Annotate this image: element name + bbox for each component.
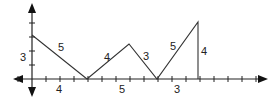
axis-distance-label: 3 [20, 51, 26, 63]
axis-labels: 3453 [20, 51, 180, 95]
axis-distance-label: 4 [56, 83, 62, 95]
axis-distance-label: 3 [174, 83, 180, 95]
axis-distance-label: 5 [119, 83, 125, 95]
segment-length-label: 4 [201, 45, 207, 57]
segment-labels: 54354 [58, 40, 207, 63]
y-axis-down-arrow-icon [28, 87, 36, 97]
diagram-svg: 54354 3453 [0, 0, 278, 99]
segment-length-label: 3 [143, 50, 149, 62]
y-axis-up-arrow-icon [28, 3, 36, 13]
x-axis-right-arrow-icon [258, 75, 268, 83]
segment-length-label: 5 [170, 40, 176, 52]
diagram-canvas: 54354 3453 [0, 0, 278, 99]
segment-length-label: 4 [104, 51, 110, 63]
axes [18, 8, 262, 92]
segment-length-label: 5 [58, 41, 64, 53]
